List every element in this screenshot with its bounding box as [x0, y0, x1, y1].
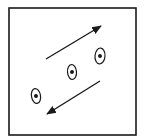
cell-nucleus: [34, 94, 39, 99]
cells-group: [30, 48, 105, 105]
cell-3: [94, 48, 105, 65]
cell-nucleus: [98, 54, 102, 58]
cell-nucleus: [70, 70, 74, 74]
cell-2: [67, 64, 77, 80]
arrows-group: [46, 26, 101, 114]
cell-1: [30, 88, 41, 104]
diagram-canvas: [0, 0, 145, 140]
arrow-down-left-icon: [47, 81, 100, 114]
arrow-up-right-icon: [46, 26, 101, 59]
